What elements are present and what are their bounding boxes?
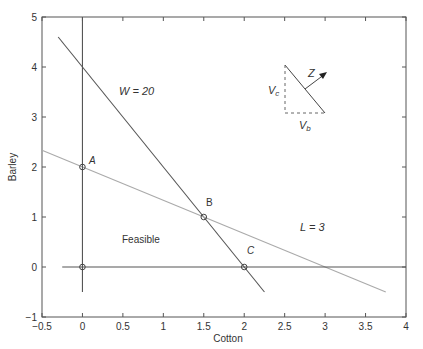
vc-label: Vc (268, 84, 279, 98)
feasible-region-label: Feasible (122, 234, 160, 245)
x-tick-label: 4 (403, 321, 409, 332)
point-c-label: C (247, 245, 255, 256)
series-line (42, 150, 386, 292)
x-tick-label: 0 (80, 321, 86, 332)
point-a-label: A (88, 155, 96, 166)
x-axis-ticks: −0.500.511.522.533.54 (32, 17, 409, 332)
x-tick-label: 1 (161, 321, 167, 332)
y-tick-label: 3 (31, 112, 37, 123)
plot-area (42, 17, 406, 317)
lp-chart: −0.500.511.522.533.54 −1012345 W = 20 L … (0, 0, 423, 349)
y-tick-label: 0 (31, 262, 37, 273)
x-axis-label: Cotton (213, 333, 242, 344)
objective-inset: Z Vc Vb (268, 65, 327, 133)
x-tick-label: 0.5 (116, 321, 130, 332)
point-b-label: B (206, 197, 213, 208)
l-constraint-label: L = 3 (300, 221, 325, 233)
w-constraint-label: W = 20 (119, 85, 155, 97)
corner-points (80, 164, 247, 270)
constraint-lines (42, 17, 406, 292)
x-tick-label: 2 (241, 321, 247, 332)
y-tick-label: 2 (31, 162, 37, 173)
x-tick-label: 3 (322, 321, 328, 332)
vb-label: Vb (299, 119, 311, 133)
x-tick-label: 3.5 (359, 321, 373, 332)
z-label: Z (307, 67, 316, 79)
y-tick-label: −1 (26, 312, 38, 323)
x-tick-label: 2.5 (278, 321, 292, 332)
y-tick-label: 4 (31, 62, 37, 73)
y-axis-label: Barley (7, 153, 18, 181)
y-tick-label: 5 (31, 12, 37, 23)
y-tick-label: 1 (31, 212, 37, 223)
x-tick-label: 1.5 (197, 321, 211, 332)
